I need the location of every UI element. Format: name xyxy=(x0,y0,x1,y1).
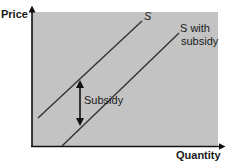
supply-curve-s-label: S xyxy=(144,10,152,22)
supply-curve-with-subsidy-label-line2: subsidy xyxy=(181,35,219,47)
supply-curve-with-subsidy-label-line1: S with xyxy=(180,22,210,34)
x-axis-label: Quantity xyxy=(176,149,221,161)
y-axis-label: Price xyxy=(1,8,28,20)
supply-subsidy-diagram: Price Quantity S S with subsidy Subsidy xyxy=(0,0,229,163)
subsidy-label: Subsidy xyxy=(84,94,124,106)
